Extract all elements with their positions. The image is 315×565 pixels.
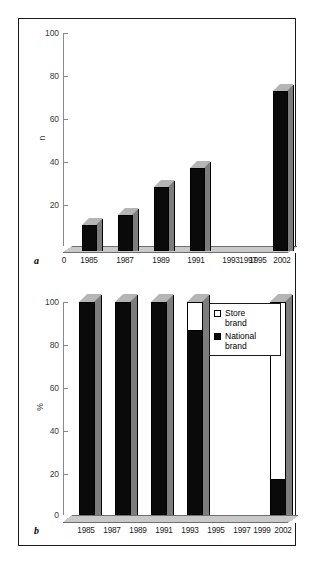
panel-a-ytick-80: [64, 76, 68, 77]
panel-b-ytick-60: [64, 388, 68, 389]
panel-a-ylabel-20: 20: [35, 200, 59, 210]
legend-item-store-brand: Store brand: [214, 308, 275, 328]
panel-b-ylabel-40: 40: [35, 426, 59, 436]
bar-side: [287, 85, 294, 251]
panel-a-bar-1985: [82, 225, 102, 251]
panel-b-ylabel-80: 80: [35, 340, 59, 350]
panel-b-bar-1991: [187, 302, 210, 515]
panel-b-ylabel-60: 60: [35, 383, 59, 393]
bar-front: [118, 215, 133, 251]
panel-a: 100 80 60 40 20 n: [19, 19, 295, 267]
national-brand-swatch-icon: [214, 333, 221, 340]
panel-a-ytick-40: [64, 162, 68, 163]
panel-b-floor: [71, 515, 289, 523]
panel-b-xlabel-1987: 1987: [99, 526, 125, 535]
bar-side: [132, 209, 139, 251]
bar-front: [190, 168, 205, 251]
bar-side: [130, 295, 138, 515]
panel-a-floor: [71, 246, 289, 253]
panel-a-xlabel-1989: 1989: [148, 256, 174, 265]
panel-b-ytick-80: [64, 345, 68, 346]
figure-root: 100 80 60 40 20 n: [0, 0, 315, 565]
bar-front: [82, 225, 97, 251]
panel-a-floor-left-edge: [63, 246, 72, 253]
panel-a-ylabel-80: 80: [35, 71, 59, 81]
panel-a-ylabel-60: 60: [35, 114, 59, 124]
panel-a-ylabel-100: 100: [35, 28, 59, 38]
panel-b-xlabel-1985: 1985: [73, 526, 99, 535]
bar-side: [204, 162, 211, 251]
panel-a-xlabel-1997-final: 1997: [235, 256, 261, 265]
panel-b-xlabel-1991: 1991: [151, 526, 177, 535]
panel-a-bar-1987: [118, 215, 138, 251]
bar-side: [168, 181, 175, 251]
panel-a-xlabel-2002-final: 2002: [269, 256, 295, 265]
panel-a-xlabel-1985: 1985: [76, 256, 102, 265]
bar-side: [94, 295, 102, 515]
panel-b-ylabel-20: 20: [35, 469, 59, 479]
legend-label-national-brand: National brand: [225, 331, 256, 351]
panel-a-y-axis-title: n: [37, 131, 47, 145]
bar-segment-national: [187, 330, 203, 515]
panel-b-ytick-100: [64, 302, 68, 303]
panel-a-xlabel-0: 0: [53, 256, 75, 265]
panel-b-ylabel-0: 0: [35, 510, 59, 520]
bar-side: [285, 295, 293, 515]
legend: Store brand National brand: [209, 303, 281, 356]
panel-b-y-axis: [63, 302, 64, 515]
panel-b-xlabel-2002: 2002: [270, 526, 296, 535]
panel-a-letter: a: [34, 255, 39, 266]
panel-b-bar-1987: [115, 302, 138, 515]
panel-a-bar-1991: [190, 168, 210, 251]
store-brand-swatch-icon: [214, 310, 221, 317]
panel-a-xlabel-1987: 1987: [112, 256, 138, 265]
figure-frame: 100 80 60 40 20 n: [18, 18, 296, 546]
panel-b-ytick-20: [64, 474, 68, 475]
panel-a-ytick-100: [64, 33, 68, 34]
panel-b-ylabel-100: 100: [35, 297, 59, 307]
panel-a-bar-2002: [273, 91, 293, 251]
panel-b-floor-right-edge: [288, 515, 298, 523]
panel-a-ytick-60: [64, 119, 68, 120]
bar-front: [273, 91, 288, 251]
panel-b-bar-1985: [79, 302, 102, 515]
panel-a-ylabel-40: 40: [35, 157, 59, 167]
panel-a-bar-1989: [154, 187, 174, 251]
panel-b-floor-left-edge: [63, 515, 72, 523]
panel-b: 100 80 60 40 20 0 %: [19, 277, 295, 545]
bar-front: [154, 187, 169, 251]
bar-segment-national: [270, 479, 286, 515]
bar-segment-national: [151, 302, 167, 515]
panel-b-xlabel-1993: 1993: [177, 526, 203, 535]
panel-a-xlabel-1991: 1991: [183, 256, 209, 265]
panel-b-letter: b: [34, 525, 39, 536]
panel-a-y-axis: [63, 33, 64, 246]
legend-label-store-brand: Store brand: [225, 308, 247, 328]
panel-b-y-axis-title: %: [35, 400, 45, 414]
panel-b-xlabel-1995: 1995: [203, 526, 229, 535]
panel-b-bar-1989: [151, 302, 174, 515]
bar-side: [166, 295, 174, 515]
panel-a-ytick-20: [64, 205, 68, 206]
bar-segment-national: [79, 302, 95, 515]
legend-item-national-brand: National brand: [214, 331, 275, 351]
bar-segment-national: [115, 302, 131, 515]
panel-b-ytick-40: [64, 431, 68, 432]
panel-b-xlabel-1989: 1989: [125, 526, 151, 535]
